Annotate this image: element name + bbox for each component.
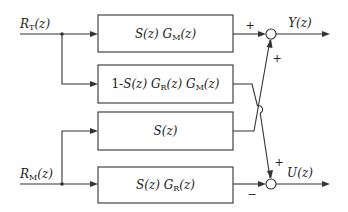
block-b3-label: S(z) — [154, 124, 178, 138]
sign-u-bottom: − — [247, 188, 256, 201]
arrow-icon — [90, 81, 98, 87]
wire-b2-to-sum-u-a — [233, 84, 258, 106]
arrow-icon — [258, 181, 266, 187]
arrow-icon — [258, 31, 266, 37]
sign-y-top: + — [245, 19, 254, 32]
arrow-icon — [322, 31, 330, 37]
arrow-icon — [322, 181, 330, 187]
block-b2: 1-S(z) GR(z) GM(z) — [98, 65, 233, 103]
wire-b3-to-sum-y — [233, 40, 270, 131]
arrow-icon — [90, 128, 98, 134]
input-rm: RM(z) — [19, 128, 98, 187]
block-b4: S(z) GR(z) — [98, 167, 233, 203]
wire-rt-to-b2 — [62, 34, 92, 84]
input-rm-label: RM(z) — [19, 167, 53, 182]
block-b1-label: S(z) GM(z) — [135, 27, 197, 42]
input-rt-label: RT(z) — [19, 17, 50, 32]
block-b3: S(z) — [98, 112, 233, 150]
summing-junction-u — [266, 179, 276, 189]
output-u: U(z) — [276, 166, 330, 187]
input-rt: RT(z) — [19, 17, 98, 87]
wire-rm-to-b3 — [62, 131, 92, 184]
arrow-icon — [90, 181, 98, 187]
sign-y-side: + — [272, 52, 281, 65]
sign-u-side: + — [274, 156, 283, 169]
output-u-label: U(z) — [287, 166, 313, 180]
output-y-label: Y(z) — [288, 16, 312, 30]
arrow-icon — [90, 31, 98, 37]
wire-b2-to-sum-u-b — [260, 113, 270, 178]
output-y: Y(z) — [276, 16, 330, 37]
block-b2-label: 1-S(z) GR(z) GM(z) — [111, 77, 219, 92]
summing-junction-y — [266, 29, 276, 39]
block-b1: S(z) GM(z) — [98, 15, 233, 52]
block-diagram: RT(z) RM(z) S(z) GM(z) 1-S(z) GR(z) GM(z… — [0, 0, 348, 212]
block-b4-label: S(z) GR(z) — [136, 178, 195, 193]
